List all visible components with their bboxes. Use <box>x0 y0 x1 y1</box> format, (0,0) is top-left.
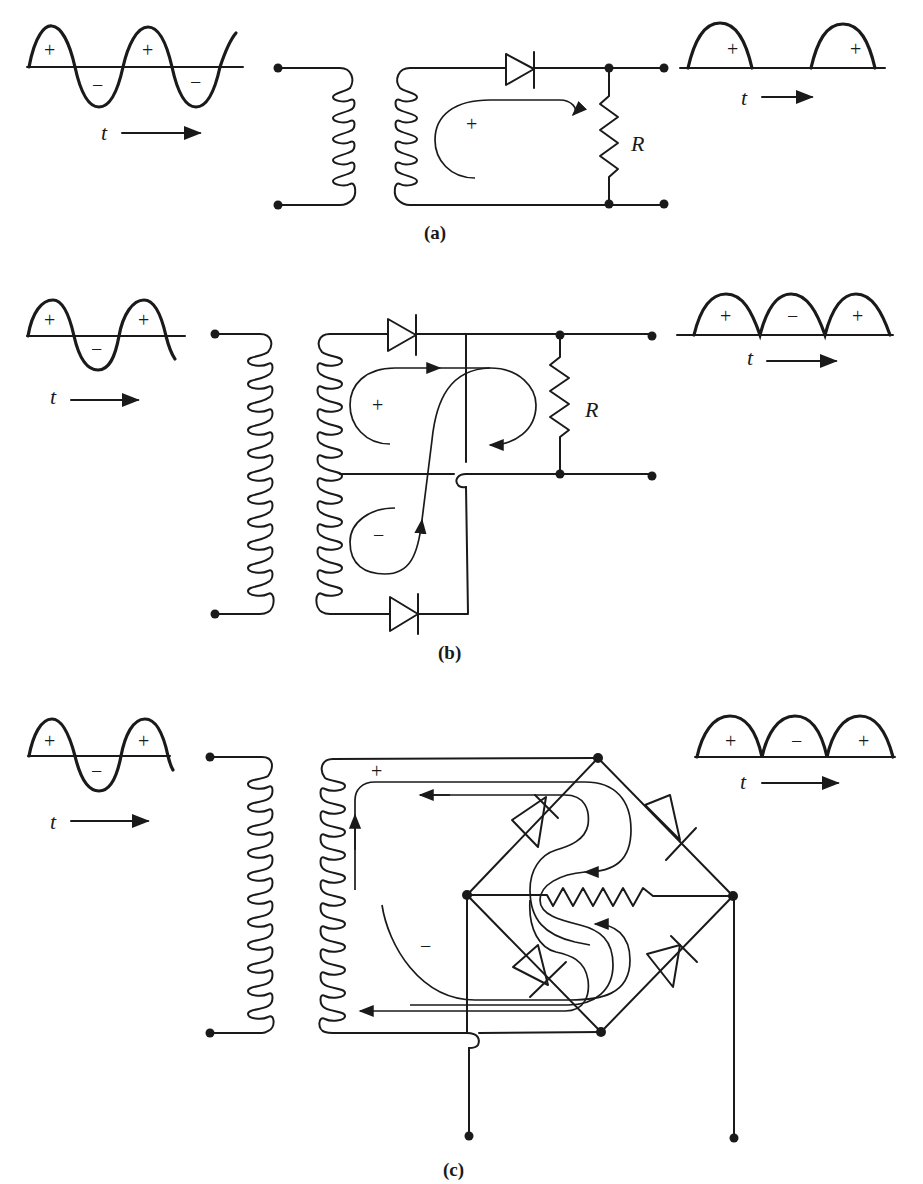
output-terminal <box>660 64 669 73</box>
transformer-secondary-b <box>316 334 342 614</box>
wave-label: − <box>787 305 798 327</box>
wave-label: − <box>791 730 802 752</box>
transformer-secondary-c <box>319 759 345 1033</box>
panel-a: + − + − t <box>27 23 885 244</box>
diode-c-upper-left <box>512 795 558 847</box>
loop-label: + <box>466 113 477 135</box>
panel-caption: (a) <box>424 222 446 244</box>
time-label: t <box>741 85 748 110</box>
time-label: t <box>50 384 57 409</box>
output-waveform-c: + − + t <box>695 716 895 794</box>
time-label: t <box>740 769 747 794</box>
panel-c: + − + t <box>28 716 895 1181</box>
wave-label: + <box>725 730 736 752</box>
wave-label: − <box>190 71 201 93</box>
current-flow-arrow-icon <box>355 782 631 890</box>
transformer-secondary-a <box>395 68 417 205</box>
resistor-b: R <box>550 335 599 474</box>
output-terminal <box>648 472 657 481</box>
wave-label: + <box>138 730 149 752</box>
wave-label: + <box>138 309 149 331</box>
resistor-label: R <box>630 131 645 156</box>
input-waveform-c: + − + t <box>28 719 173 834</box>
output-waveform-b: + − + t <box>677 294 893 370</box>
wave-label: + <box>727 38 738 60</box>
transformer-primary-c <box>206 753 274 1038</box>
loop-label: − <box>420 935 431 957</box>
diode-c-lower-right <box>647 936 697 987</box>
output-terminal <box>730 1134 739 1143</box>
panel-caption: (c) <box>443 1159 464 1181</box>
resistor-label: R <box>584 397 599 422</box>
wave-label: + <box>44 39 55 61</box>
output-terminal <box>660 200 669 209</box>
diode-b-top <box>388 315 416 355</box>
panel-caption: (b) <box>438 642 461 664</box>
transformer-primary-a <box>274 64 356 210</box>
wave-label: − <box>92 74 103 96</box>
diode-b-bottom <box>390 594 418 634</box>
time-label: t <box>101 120 108 145</box>
resistor-c <box>467 888 733 906</box>
current-flow-arrow-icon <box>350 508 422 574</box>
time-label: t <box>50 809 57 834</box>
wave-label: + <box>142 39 153 61</box>
loop-label: − <box>373 524 384 546</box>
loop-label: + <box>371 760 382 782</box>
current-flow-arrow-icon <box>440 368 536 445</box>
output-waveform-a: + + t <box>680 23 885 110</box>
current-flow-arrow-icon <box>435 100 575 178</box>
wave-label: + <box>44 730 55 752</box>
wave-label: + <box>720 305 731 327</box>
wave-label: + <box>852 305 863 327</box>
output-terminal <box>648 332 657 341</box>
output-terminal <box>465 1132 474 1141</box>
time-label: t <box>747 345 754 370</box>
wave-label: + <box>850 38 861 60</box>
wave-label: − <box>91 338 102 360</box>
wave-label: − <box>91 760 102 782</box>
current-flow-arrow-icon <box>350 368 440 444</box>
panel-b: + − + t <box>27 294 893 664</box>
loop-label: + <box>372 394 383 416</box>
input-waveform-a: + − + − t <box>27 26 243 145</box>
input-waveform-b: + − + t <box>27 300 185 409</box>
resistor-a: R <box>600 68 645 204</box>
transformer-primary-b <box>211 330 274 619</box>
wave-label: + <box>858 730 869 752</box>
diode-a <box>506 52 534 88</box>
wave-label: + <box>44 309 55 331</box>
rectifier-circuits-figure: + − + − t <box>0 0 923 1184</box>
